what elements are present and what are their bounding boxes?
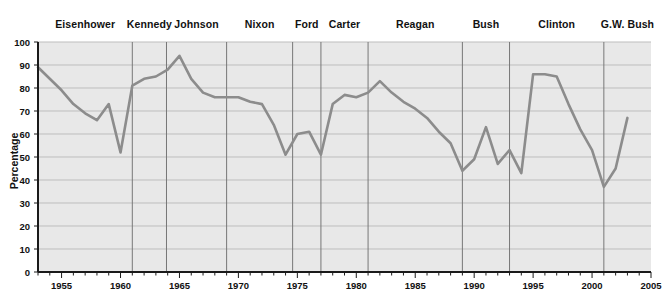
x-tick-1975: 1975 [287,280,308,291]
y-tick-50: 50 [4,152,30,163]
president-label-reagan: Reagan [396,18,435,30]
y-tick-90: 90 [4,60,30,71]
president-label-ford: Ford [295,18,319,30]
y-tick-70: 70 [4,106,30,117]
x-tick-1970: 1970 [228,280,249,291]
y-tick-10: 10 [4,244,30,255]
president-label-kennedy: Kennedy [127,18,172,30]
x-tick-1980: 1980 [346,280,367,291]
president-label-eisenhower: Eisenhower [55,18,115,30]
y-tick-100: 100 [4,37,30,48]
president-label-bush: Bush [473,18,500,30]
x-tick-2005: 2005 [640,280,661,291]
y-tick-20: 20 [4,221,30,232]
y-tick-60: 60 [4,129,30,140]
y-tick-30: 30 [4,198,30,209]
x-tick-1995: 1995 [523,280,544,291]
x-tick-2000: 2000 [581,280,602,291]
y-tick-80: 80 [4,83,30,94]
x-tick-1960: 1960 [110,280,131,291]
x-tick-1985: 1985 [405,280,426,291]
president-label-carter: Carter [329,18,361,30]
x-tick-1990: 1990 [464,280,485,291]
x-tick-1955: 1955 [51,280,72,291]
plot-canvas [0,0,665,304]
president-label-clinton: Clinton [538,18,575,30]
y-tick-0: 0 [4,267,30,278]
presidential-approval-chart: Percentage EisenhowerKennedyJohnsonNixon… [0,0,665,304]
x-tick-1965: 1965 [169,280,190,291]
y-tick-40: 40 [4,175,30,186]
president-label-g-w-bush: G.W. Bush [601,18,654,30]
president-label-johnson: Johnson [174,18,218,30]
president-label-nixon: Nixon [245,18,275,30]
